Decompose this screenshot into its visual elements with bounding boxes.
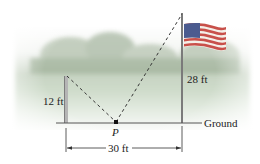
point-p-marker (114, 120, 118, 124)
left-pole-height-label: 12 ft (43, 96, 63, 107)
distance-label: 30 ft (108, 143, 128, 154)
flagpole-height-label: 28 ft (187, 74, 207, 85)
diagram-figure: 12 ft 28 ft Ground P 30 ft (0, 0, 260, 164)
scene-graphic (0, 0, 260, 164)
point-p-label: P (112, 127, 119, 138)
park-background (0, 0, 260, 164)
left-pole (64, 76, 68, 123)
ground-label: Ground (204, 118, 238, 129)
flagpole (181, 13, 183, 123)
